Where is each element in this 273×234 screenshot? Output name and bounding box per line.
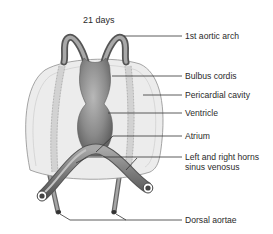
figure-title: 21 days [83, 15, 115, 25]
label-bulbus-cordis: Bulbus cordis [185, 71, 237, 81]
aortic-arches-shape [64, 37, 126, 62]
heart-development-diagram: 21 days [0, 0, 273, 234]
label-sinus-venosus-line1: Left and right horns [185, 152, 259, 162]
label-dorsal-aortae: Dorsal aortae [185, 215, 237, 225]
label-aortic-arch: 1st aortic arch [185, 31, 239, 41]
label-sinus-venosus-line2: sinus venosus [185, 162, 239, 172]
label-atrium: Atrium [185, 131, 210, 141]
label-pericardial-cavity: Pericardial cavity [185, 90, 251, 100]
label-ventricle: Ventricle [185, 108, 218, 118]
